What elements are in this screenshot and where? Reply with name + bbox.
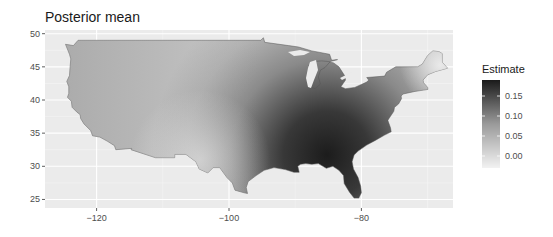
legend-label: 0.00	[505, 151, 523, 161]
legend-label: 0.05	[505, 131, 523, 141]
x-tick-label: −100	[219, 213, 239, 223]
legend-title: Estimate	[482, 63, 525, 75]
y-tick-label: 25	[30, 194, 40, 204]
chart: Posterior mean 253035404550 −120−100−80 …	[0, 0, 553, 237]
y-tick-label: 35	[30, 128, 40, 138]
legend-label: 0.15	[505, 91, 523, 101]
y-tick-label: 40	[30, 95, 40, 105]
y-axis: 253035404550	[30, 29, 45, 205]
x-tick-label: −80	[354, 213, 369, 223]
legend: Estimate 0.150.100.050.00	[482, 63, 525, 168]
legend-label: 0.10	[505, 111, 523, 121]
y-tick-label: 45	[30, 62, 40, 72]
y-tick-label: 30	[30, 161, 40, 171]
x-tick-label: −120	[86, 213, 106, 223]
x-axis: −120−100−80	[86, 208, 369, 223]
legend-colorbar	[482, 80, 500, 168]
y-tick-label: 50	[30, 29, 40, 39]
chart-title: Posterior mean	[45, 9, 140, 25]
